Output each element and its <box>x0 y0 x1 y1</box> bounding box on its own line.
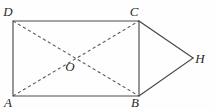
geometry-figure-svg: D C A B H O <box>0 0 214 109</box>
segment-hb-path <box>139 58 193 96</box>
vertex-label-h: H <box>194 51 205 66</box>
vertex-label-d: D <box>2 4 13 19</box>
vertex-label-a: A <box>3 95 12 109</box>
segment-ch-path <box>139 21 193 58</box>
vertex-label-o: O <box>65 59 75 74</box>
vertex-label-b: B <box>131 95 139 109</box>
vertex-label-c: C <box>130 4 139 19</box>
geometry-figure-container: D C A B H O <box>0 0 214 109</box>
